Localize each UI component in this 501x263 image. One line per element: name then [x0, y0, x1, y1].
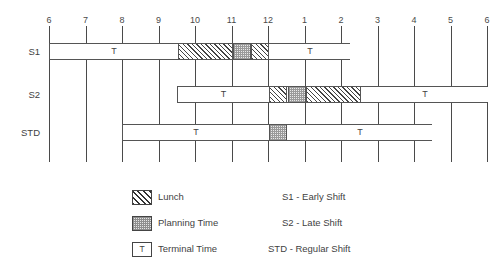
x-tick-label-2: 8	[112, 16, 132, 25]
segment-std-planning[interactable]	[269, 125, 287, 140]
segment-s2-lunch[interactable]	[269, 87, 287, 102]
bar-s1[interactable]: TT	[49, 43, 350, 60]
x-tick-label-12: 6	[477, 16, 497, 25]
row-label-s2: S2	[0, 90, 40, 100]
terminal-time-label: T	[178, 89, 269, 99]
segment-s2-lunch[interactable]	[306, 87, 361, 102]
segment-s1-terminal[interactable]: T	[269, 44, 351, 59]
legend-swatch-letter: T	[133, 243, 151, 256]
terminal-time-label: T	[269, 46, 351, 56]
segment-s1-terminal[interactable]: T	[50, 44, 178, 59]
terminal-time-label: T	[287, 127, 433, 137]
x-tick-label-6: 12	[258, 16, 278, 25]
terminal-time-label: T	[361, 89, 489, 99]
legend-label-term: Terminal Time	[158, 243, 217, 255]
bar-s2[interactable]: TT	[177, 86, 487, 103]
segment-s1-lunch[interactable]	[251, 44, 269, 59]
segment-std-terminal[interactable]: T	[123, 125, 269, 140]
x-tick-label-4: 10	[185, 16, 205, 25]
bar-std[interactable]: TT	[122, 124, 432, 141]
terminal-time-label: T	[50, 46, 178, 56]
x-tick-label-3: 9	[149, 16, 169, 25]
x-tick-label-10: 4	[404, 16, 424, 25]
x-tick-label-5: 11	[222, 16, 242, 25]
x-tick-label-1: 7	[76, 16, 96, 25]
x-tick-label-8: 2	[331, 16, 351, 25]
x-tick-label-7: 1	[295, 16, 315, 25]
legend-shift-std: STD - Regular Shift	[268, 243, 350, 255]
legend-shift-s1: S1 - Early Shift	[282, 191, 345, 203]
legend-swatch-plan-icon	[132, 216, 152, 231]
x-tick-label-0: 6	[39, 16, 59, 25]
x-tick-label-9: 3	[368, 16, 388, 25]
row-label-std: STD	[0, 128, 40, 138]
shift-schedule-chart: 6789101112123456 S1S2STD TTTTTT LunchPla…	[0, 0, 501, 263]
segment-s2-terminal[interactable]: T	[361, 87, 489, 102]
segment-s2-terminal[interactable]: T	[178, 87, 269, 102]
segment-s2-planning[interactable]	[288, 87, 306, 102]
legend-label-plan: Planning Time	[158, 217, 218, 229]
legend-swatch-lunch-icon	[132, 190, 152, 205]
segment-s1-planning[interactable]	[233, 44, 251, 59]
x-tick-label-11: 5	[441, 16, 461, 25]
legend-swatch-term-icon: T	[132, 242, 152, 257]
legend-shift-s2: S2 - Late Shift	[282, 217, 342, 229]
segment-std-terminal[interactable]: T	[287, 125, 433, 140]
terminal-time-label: T	[123, 127, 269, 137]
segment-s1-lunch[interactable]	[178, 44, 233, 59]
legend-label-lunch: Lunch	[158, 191, 184, 203]
row-label-s1: S1	[0, 47, 40, 57]
